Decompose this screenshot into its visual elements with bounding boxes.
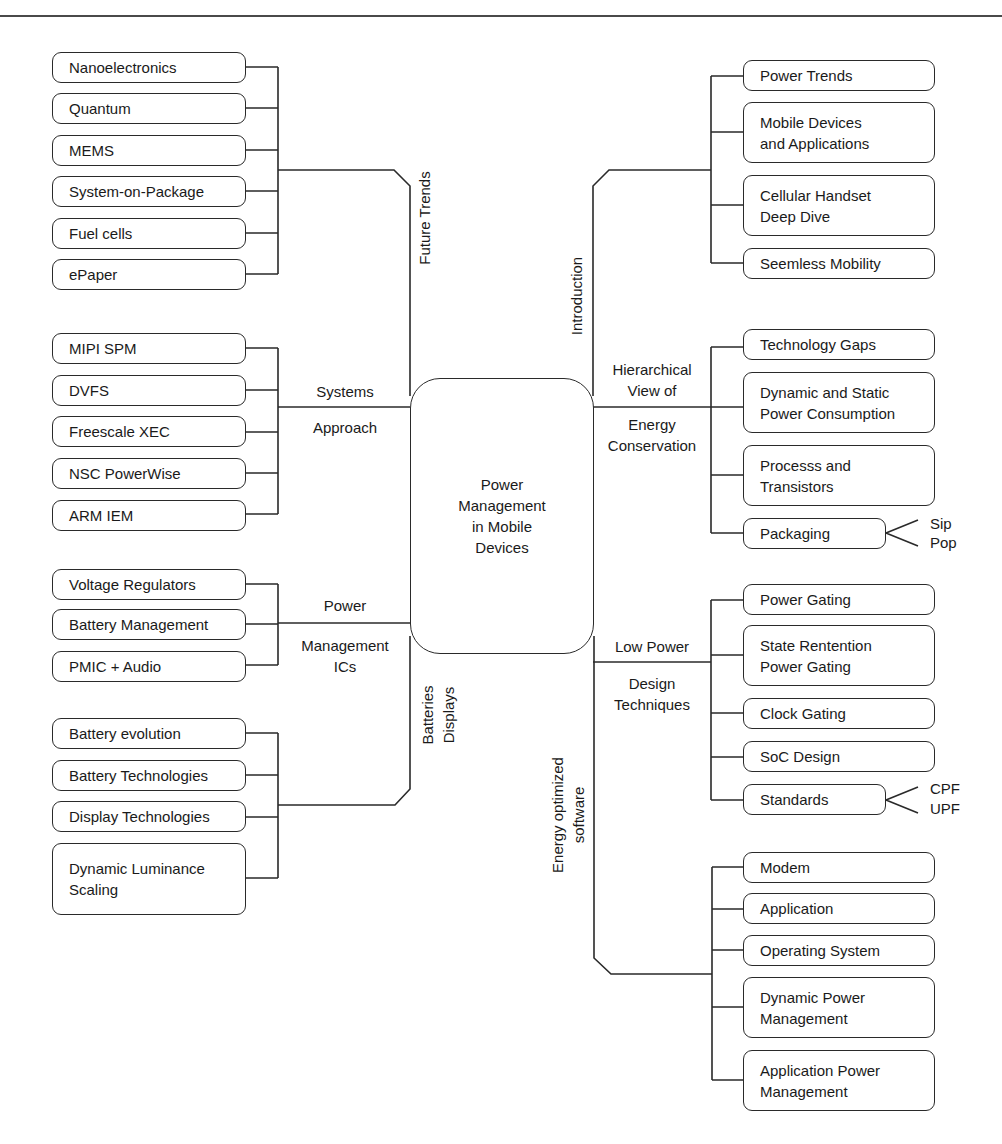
node-pmic-audio[interactable]: PMIC + Audio bbox=[52, 651, 246, 682]
node-dvfs[interactable]: DVFS bbox=[52, 375, 246, 406]
node-label: Voltage Regulators bbox=[69, 574, 196, 595]
branch-label-management-ics: Management ICs bbox=[280, 635, 410, 677]
node-label: Nanoelectronics bbox=[69, 57, 177, 78]
node-label: Battery Technologies bbox=[69, 765, 208, 786]
node-battery-technologies[interactable]: Battery Technologies bbox=[52, 760, 246, 791]
node-label: MIPI SPM bbox=[69, 338, 137, 359]
node-power-gating[interactable]: Power Gating bbox=[743, 584, 935, 615]
node-label: Operating System bbox=[760, 940, 880, 961]
branch-label-hierarchical-view: Hierarchical View of bbox=[595, 359, 709, 401]
node-label: MEMS bbox=[69, 140, 114, 161]
node-label: Packaging bbox=[760, 523, 830, 544]
node-mobile-devices-applications[interactable]: Mobile Devices and Applications bbox=[743, 102, 935, 163]
branch-label-energy-conservation: Energy Conservation bbox=[595, 414, 709, 456]
node-label: Power Trends bbox=[760, 65, 853, 86]
branch-label-energy-optimized-software: Energy optimized software bbox=[547, 725, 589, 905]
branch-label-power: Power bbox=[280, 595, 410, 616]
node-power-trends[interactable]: Power Trends bbox=[743, 60, 935, 91]
node-modem[interactable]: Modem bbox=[743, 852, 935, 883]
node-label: Application Power Management bbox=[760, 1060, 880, 1102]
branch-label-systems: Systems bbox=[290, 381, 400, 402]
node-label: Fuel cells bbox=[69, 223, 132, 244]
central-topic-label: Power Management in Mobile Devices bbox=[458, 474, 546, 558]
node-label: Clock Gating bbox=[760, 703, 846, 724]
node-system-on-package[interactable]: System-on-Package bbox=[52, 176, 246, 207]
node-label: Dynamic Luminance Scaling bbox=[69, 858, 205, 900]
node-voltage-regulators[interactable]: Voltage Regulators bbox=[52, 569, 246, 600]
node-packaging[interactable]: Packaging bbox=[743, 518, 886, 549]
node-battery-evolution[interactable]: Battery evolution bbox=[52, 718, 246, 749]
node-label: State Rentention Power Gating bbox=[760, 635, 872, 677]
node-label: Battery evolution bbox=[69, 723, 181, 744]
node-application[interactable]: Application bbox=[743, 893, 935, 924]
node-soc-design[interactable]: SoC Design bbox=[743, 741, 935, 772]
node-label: Quantum bbox=[69, 98, 131, 119]
branch-label-approach: Approach bbox=[290, 417, 400, 438]
node-label: System-on-Package bbox=[69, 181, 204, 202]
node-label: ARM IEM bbox=[69, 505, 133, 526]
node-label: Cellular Handset Deep Dive bbox=[760, 185, 871, 227]
branch-label-introduction: Introduction bbox=[566, 226, 587, 366]
node-nanoelectronics[interactable]: Nanoelectronics bbox=[52, 52, 246, 83]
node-freescale-xec[interactable]: Freescale XEC bbox=[52, 416, 246, 447]
node-label: Technology Gaps bbox=[760, 334, 876, 355]
node-quantum[interactable]: Quantum bbox=[52, 93, 246, 124]
node-label: NSC PowerWise bbox=[69, 463, 181, 484]
leaf-upf: UPF bbox=[930, 799, 960, 819]
node-label: Display Technologies bbox=[69, 806, 210, 827]
leaf-cpf: CPF bbox=[930, 779, 960, 799]
node-label: Battery Management bbox=[69, 614, 208, 635]
node-label: Processs and Transistors bbox=[760, 455, 851, 497]
leaf-pop: Pop bbox=[930, 533, 957, 553]
leaf-sip: Sip bbox=[930, 514, 952, 534]
node-state-retention-power-gating[interactable]: State Rentention Power Gating bbox=[743, 625, 935, 686]
node-nsc-powerwise[interactable]: NSC PowerWise bbox=[52, 458, 246, 489]
node-dynamic-static-power[interactable]: Dynamic and Static Power Consumption bbox=[743, 372, 935, 433]
node-seemless-mobility[interactable]: Seemless Mobility bbox=[743, 248, 935, 279]
node-battery-management[interactable]: Battery Management bbox=[52, 609, 246, 640]
node-cellular-handset-deep-dive[interactable]: Cellular Handset Deep Dive bbox=[743, 175, 935, 236]
node-dynamic-power-management[interactable]: Dynamic Power Management bbox=[743, 977, 935, 1038]
node-process-transistors[interactable]: Processs and Transistors bbox=[743, 445, 935, 506]
node-epaper[interactable]: ePaper bbox=[52, 259, 246, 290]
node-label: Mobile Devices and Applications bbox=[760, 112, 869, 154]
node-label: Freescale XEC bbox=[69, 421, 170, 442]
branch-label-future-trends: Future Trends bbox=[414, 138, 435, 298]
node-technology-gaps[interactable]: Technology Gaps bbox=[743, 329, 935, 360]
node-fuel-cells[interactable]: Fuel cells bbox=[52, 218, 246, 249]
node-label: Application bbox=[760, 898, 833, 919]
branch-label-batteries-displays: Batteries Displays bbox=[417, 660, 459, 770]
node-label: ePaper bbox=[69, 264, 117, 285]
node-mipi-spm[interactable]: MIPI SPM bbox=[52, 333, 246, 364]
node-dynamic-luminance-scaling[interactable]: Dynamic Luminance Scaling bbox=[52, 843, 246, 915]
central-topic-node[interactable]: Power Management in Mobile Devices bbox=[410, 378, 594, 654]
branch-label-low-power: Low Power bbox=[597, 636, 707, 657]
node-mems[interactable]: MEMS bbox=[52, 135, 246, 166]
node-application-power-management[interactable]: Application Power Management bbox=[743, 1050, 935, 1111]
node-label: Power Gating bbox=[760, 589, 851, 610]
node-operating-system[interactable]: Operating System bbox=[743, 935, 935, 966]
node-label: PMIC + Audio bbox=[69, 656, 161, 677]
node-display-technologies[interactable]: Display Technologies bbox=[52, 801, 246, 832]
node-label: Dynamic and Static Power Consumption bbox=[760, 382, 895, 424]
node-label: Modem bbox=[760, 857, 810, 878]
node-label: SoC Design bbox=[760, 746, 840, 767]
node-label: Standards bbox=[760, 789, 828, 810]
node-arm-iem[interactable]: ARM IEM bbox=[52, 500, 246, 531]
node-clock-gating[interactable]: Clock Gating bbox=[743, 698, 935, 729]
node-label: Dynamic Power Management bbox=[760, 987, 865, 1029]
node-standards[interactable]: Standards bbox=[743, 784, 886, 815]
branch-label-design-techniques: Design Techniques bbox=[597, 673, 707, 715]
node-label: DVFS bbox=[69, 380, 109, 401]
node-label: Seemless Mobility bbox=[760, 253, 881, 274]
